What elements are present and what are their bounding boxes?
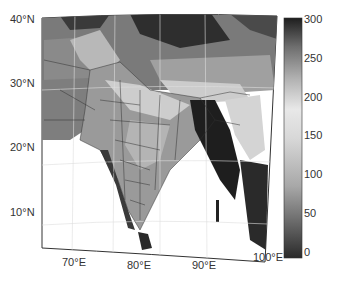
- colorbar-tick-250: 250: [304, 52, 322, 64]
- lat-label-20n: 20°N: [10, 141, 35, 153]
- colorbar-tick-100: 100: [304, 168, 322, 180]
- lon-label-70e: 70°E: [62, 256, 86, 268]
- colorbar-tick-200: 200: [304, 91, 322, 103]
- lon-label-100e: 100°E: [253, 251, 283, 263]
- colorbar: [284, 18, 302, 258]
- lat-label-10n: 10°N: [10, 206, 35, 218]
- lon-label-80e: 80°E: [127, 259, 151, 271]
- colorbar-tick-150: 150: [304, 129, 322, 141]
- lat-label-30n: 30°N: [10, 77, 35, 89]
- colorbar-tick-0: 0: [304, 246, 310, 258]
- map-figure: [0, 0, 338, 283]
- colorbar-tick-50: 50: [304, 207, 316, 219]
- lon-label-90e: 90°E: [192, 259, 216, 271]
- lat-label-40n: 40°N: [10, 13, 35, 25]
- colorbar-tick-300: 300: [304, 13, 322, 25]
